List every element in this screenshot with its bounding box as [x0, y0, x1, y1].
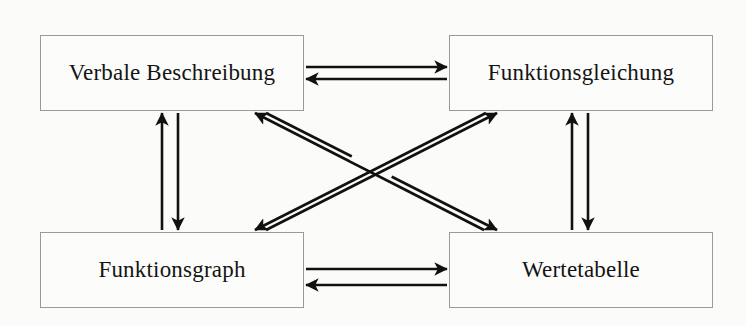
- node-label-wertetabelle: Wertetabelle: [522, 257, 640, 282]
- diagram-canvas: Verbale Beschreibung Funktionsgleichung …: [0, 0, 746, 326]
- edge-verbale-to-graph: [162, 113, 178, 230]
- node-funktionsgleichung[interactable]: Funktionsgleichung: [449, 35, 713, 111]
- edge-gleichung-to-tabelle: [572, 113, 588, 230]
- node-label-funktionsgraph: Funktionsgraph: [98, 257, 245, 282]
- node-label-funktionsgleichung: Funktionsgleichung: [488, 60, 674, 85]
- node-funktionsgraph[interactable]: Funktionsgraph: [40, 232, 304, 308]
- edge-verbale-to-gleichung: [306, 67, 447, 79]
- node-wertetabelle[interactable]: Wertetabelle: [449, 232, 713, 308]
- node-label-verbale-beschreibung: Verbale Beschreibung: [69, 60, 275, 85]
- node-verbale-beschreibung[interactable]: Verbale Beschreibung: [40, 35, 304, 111]
- edge-graph-to-tabelle: [306, 269, 447, 285]
